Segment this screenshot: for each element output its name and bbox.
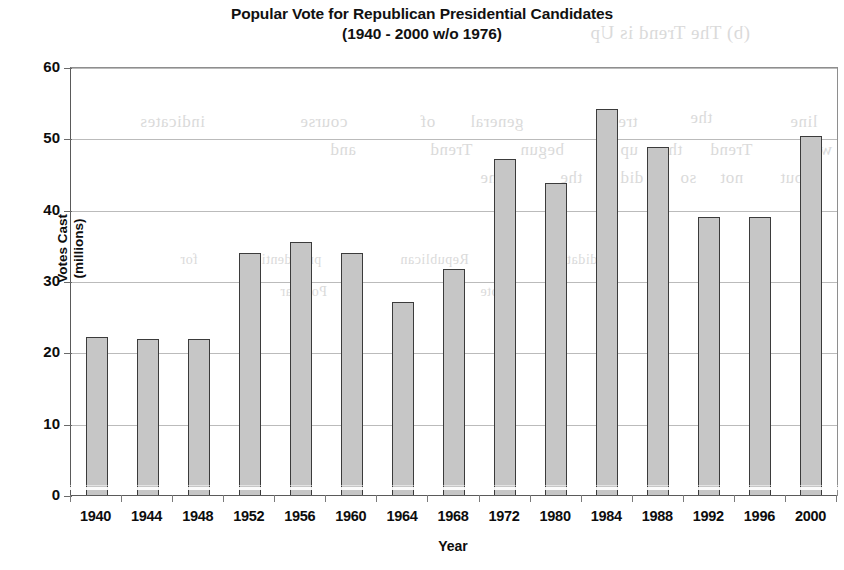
x-axis-tick <box>70 495 71 502</box>
y-axis-label: 10 <box>12 416 60 431</box>
x-axis-tick <box>734 495 735 502</box>
y-axis-tick <box>64 211 72 212</box>
bar <box>800 136 822 496</box>
bar <box>698 217 720 496</box>
x-axis-title: Year <box>70 538 836 554</box>
x-axis-tick <box>581 495 582 502</box>
plot-area <box>70 67 838 496</box>
chart-title-line1: Popular Vote for Republican Presidential… <box>231 5 613 22</box>
bar <box>749 217 771 496</box>
x-axis-tick <box>376 495 377 502</box>
x-axis-tick <box>274 495 275 502</box>
x-axis-label: 2000 <box>780 509 840 524</box>
y-axis-label: 0 <box>12 487 60 502</box>
bar <box>545 183 567 496</box>
bar <box>188 339 210 496</box>
gridline <box>71 139 837 140</box>
y-axis-tick <box>64 282 72 283</box>
bar <box>341 253 363 496</box>
x-axis-tick <box>223 495 224 502</box>
chart-title: Popular Vote for Republican Presidential… <box>0 4 844 45</box>
bar <box>239 253 261 496</box>
y-axis-tick <box>64 139 72 140</box>
x-axis-tick <box>530 495 531 502</box>
bar-chart: Popular Vote for Republican Presidential… <box>0 0 844 570</box>
x-axis-line <box>70 495 837 496</box>
y-axis-label: 30 <box>12 273 60 288</box>
x-axis-tick <box>325 495 326 502</box>
y-axis-tick <box>64 425 72 426</box>
x-axis-tick <box>785 495 786 502</box>
bar <box>86 337 108 496</box>
bar <box>137 339 159 496</box>
x-axis-tick <box>836 495 837 502</box>
x-axis-tick <box>683 495 684 502</box>
bar <box>647 147 669 496</box>
bar <box>443 269 465 496</box>
bar <box>392 302 414 496</box>
x-axis-tick <box>427 495 428 502</box>
bar <box>596 109 618 496</box>
bar <box>494 159 516 496</box>
y-axis-label: 60 <box>12 59 60 74</box>
y-axis-title-line1: Votes Cast <box>55 163 71 333</box>
x-axis-tick <box>632 495 633 502</box>
x-axis-tick <box>479 495 480 502</box>
bar <box>290 242 312 496</box>
y-axis-label: 50 <box>12 130 60 145</box>
chart-title-line2: (1940 - 2000 w/o 1976) <box>0 24 844 44</box>
y-axis-tick <box>64 68 72 69</box>
y-axis-label: 40 <box>12 202 60 217</box>
y-axis-tick <box>64 353 72 354</box>
gridline <box>71 68 837 69</box>
x-axis-tick <box>121 495 122 502</box>
x-axis-tick <box>172 495 173 502</box>
gridline <box>71 211 837 212</box>
y-axis-label: 20 <box>12 344 60 359</box>
